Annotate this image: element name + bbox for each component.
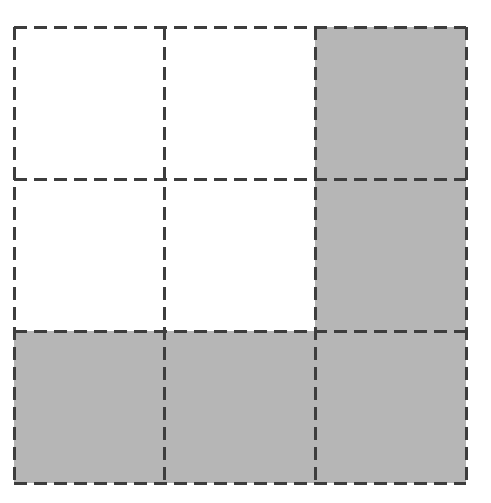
unshaded-cell[interactable] [165, 27, 316, 179]
shaded-cell[interactable] [14, 331, 165, 483]
unshaded-cell[interactable] [14, 27, 165, 179]
unshaded-cell[interactable] [165, 179, 316, 331]
shaded-cell[interactable] [315, 331, 466, 483]
shaded-fraction-grid-svg [0, 0, 491, 503]
shaded-cell[interactable] [315, 179, 466, 331]
cell-fill-layer [14, 27, 466, 483]
figure-root [0, 0, 491, 503]
unshaded-cell[interactable] [14, 179, 165, 331]
shaded-cell[interactable] [315, 27, 466, 179]
shaded-cell[interactable] [165, 331, 316, 483]
